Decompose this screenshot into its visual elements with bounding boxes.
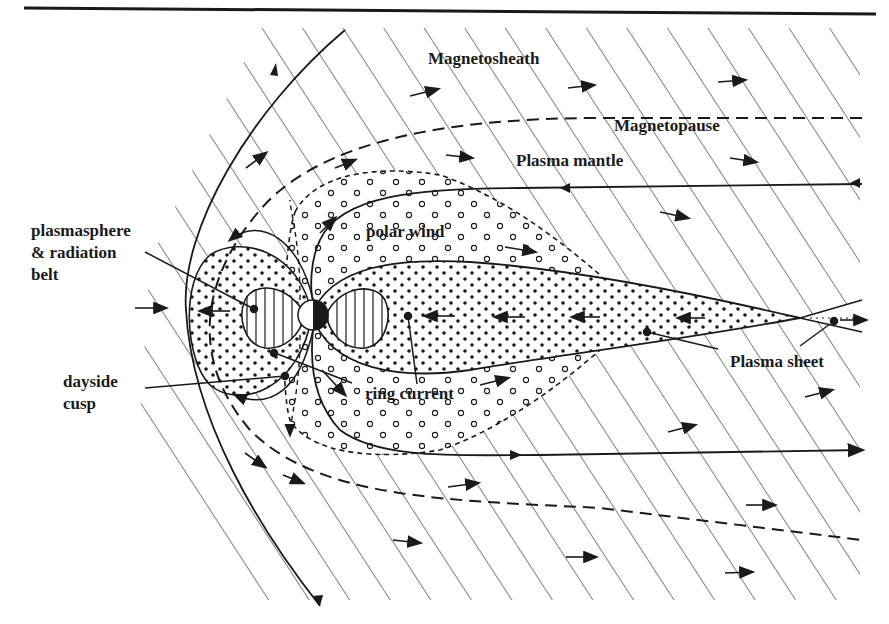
label-plasmasphere-3: belt	[31, 265, 59, 284]
label-plasma-mantle: Plasma mantle	[516, 151, 624, 170]
top-rule	[24, 8, 876, 14]
label-plasmasphere-1: plasmasphere	[31, 221, 131, 240]
label-plasmasphere-2: & radiation	[31, 243, 117, 262]
earth-icon	[298, 300, 328, 330]
magnetosphere-diagram: Magnetosheath Magnetopause Plasma mantle…	[0, 0, 889, 624]
label-dayside-cusp-1: dayside	[63, 372, 118, 391]
label-plasma-sheet: Plasma sheet	[730, 352, 824, 371]
label-ring-current: ring current	[365, 384, 454, 403]
label-magnetosheath: Magnetosheath	[428, 49, 540, 68]
label-magnetopause: Magnetopause	[614, 116, 720, 135]
label-dayside-cusp-2: cusp	[63, 394, 96, 413]
label-polar-wind: polar wind	[366, 222, 445, 241]
